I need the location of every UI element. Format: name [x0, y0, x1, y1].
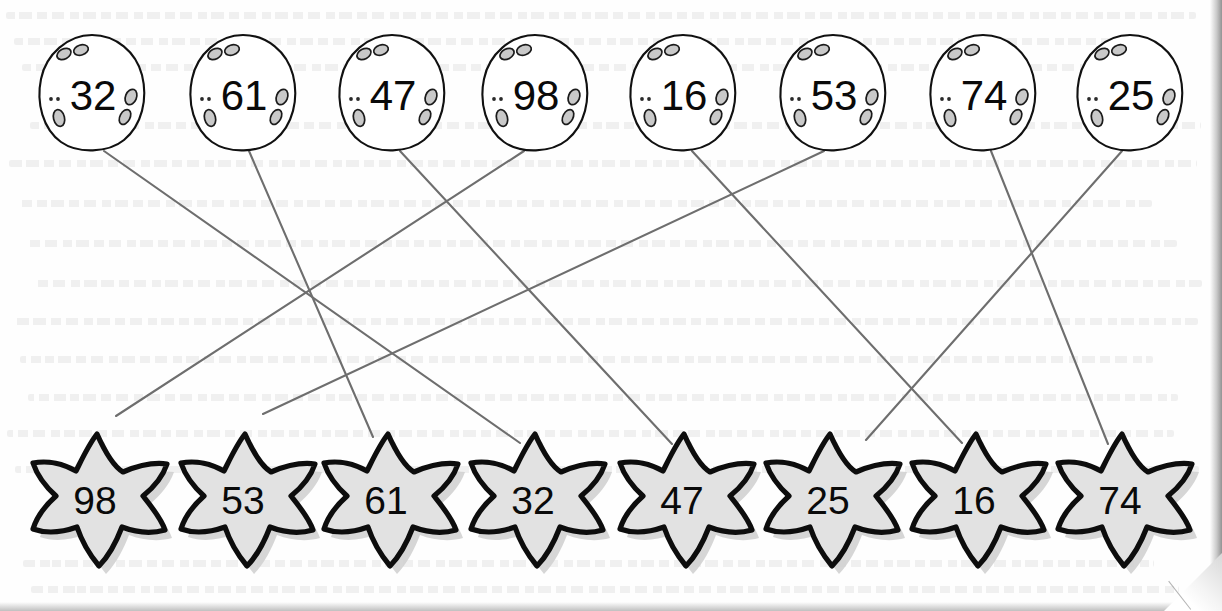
top-row-eggs: 3261479816537425 — [39, 35, 1182, 150]
egg-number-label: 53 — [811, 72, 858, 119]
starfish-number-label: 25 — [806, 479, 849, 522]
starfish-number-label: 61 — [364, 479, 407, 522]
starfish-item-16[interactable]: 16 — [912, 434, 1053, 574]
worksheet-artwork: 3261479816537425 9853613247251674 — [0, 0, 1222, 611]
egg-item-32[interactable]: 32 — [39, 35, 144, 150]
starfish-item-74[interactable]: 74 — [1058, 434, 1199, 574]
connection-line-47-to-47[interactable] — [400, 151, 672, 444]
egg-number-label: 74 — [961, 72, 1008, 119]
starfish-number-label: 74 — [1098, 479, 1141, 522]
page-edge-right — [1210, 0, 1222, 611]
starfish-item-47[interactable]: 47 — [620, 434, 761, 574]
connection-line-25-to-25[interactable] — [866, 151, 1122, 440]
connection-line-61-to-61[interactable] — [249, 151, 373, 437]
egg-item-98[interactable]: 98 — [482, 35, 587, 150]
starfish-number-label: 32 — [511, 479, 554, 522]
connection-line-53-to-53[interactable] — [263, 151, 824, 414]
egg-item-61[interactable]: 61 — [190, 35, 295, 150]
page-edge-bottom — [0, 602, 1222, 611]
egg-number-label: 32 — [70, 72, 117, 119]
starfish-item-32[interactable]: 32 — [471, 434, 612, 574]
starfish-number-label: 53 — [221, 479, 264, 522]
connection-lines — [104, 151, 1122, 444]
egg-item-53[interactable]: 53 — [780, 35, 885, 150]
starfish-item-98[interactable]: 98 — [33, 434, 174, 574]
egg-number-label: 98 — [513, 72, 560, 119]
egg-number-label: 61 — [221, 72, 268, 119]
egg-number-label: 16 — [661, 72, 708, 119]
starfish-number-label: 98 — [73, 479, 116, 522]
egg-item-74[interactable]: 74 — [930, 35, 1035, 150]
connection-line-98-to-98[interactable] — [116, 151, 524, 416]
egg-number-label: 47 — [370, 72, 417, 119]
starfish-item-61[interactable]: 61 — [324, 434, 465, 574]
starfish-number-label: 47 — [660, 479, 703, 522]
starfish-item-25[interactable]: 25 — [766, 434, 907, 574]
egg-number-label: 25 — [1108, 72, 1155, 119]
egg-item-16[interactable]: 16 — [630, 35, 735, 150]
egg-item-47[interactable]: 47 — [339, 35, 444, 150]
worksheet-page: 3261479816537425 9853613247251674 — [0, 0, 1222, 611]
bottom-row-starfish: 9853613247251674 — [33, 434, 1199, 574]
starfish-number-label: 16 — [952, 479, 995, 522]
connection-line-74-to-74[interactable] — [991, 151, 1108, 444]
starfish-item-53[interactable]: 53 — [181, 434, 322, 574]
egg-item-25[interactable]: 25 — [1077, 35, 1182, 150]
